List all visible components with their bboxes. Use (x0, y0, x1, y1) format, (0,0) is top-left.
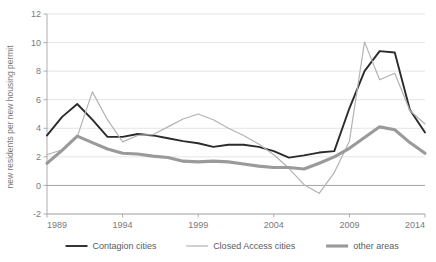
y-axis-title: new residents per new housing permit (5, 45, 15, 189)
x-tick-label: 2009 (339, 220, 359, 230)
y-tick-label: -2 (33, 209, 41, 219)
legend-label-1: Closed Access cities (213, 241, 296, 251)
x-tick-label: 1994 (113, 220, 133, 230)
x-tick-label: 2004 (264, 220, 284, 230)
y-tick-label: 12 (31, 9, 41, 19)
y-tick-label: 4 (36, 123, 41, 133)
y-tick-label: 2 (36, 152, 41, 162)
y-tick-label: 10 (31, 38, 41, 48)
x-tick-label: 1999 (188, 220, 208, 230)
x-tick-label: 2014 (405, 220, 425, 230)
y-tick-label: 0 (36, 181, 41, 191)
chart-figure: -2024681012 198919941999200420092014 new… (0, 0, 436, 262)
line-chart: -2024681012 198919941999200420092014 new… (0, 0, 436, 262)
y-tick-label: 6 (36, 95, 41, 105)
series-line-0 (47, 51, 425, 157)
x-tick-labels-group: 198919941999200420092014 (47, 214, 425, 230)
chart-legend: Contagion citiesClosed Access citiesothe… (66, 241, 400, 251)
legend-label-2: other areas (353, 241, 399, 251)
y-tick-labels-group: -2024681012 (31, 9, 47, 219)
series-paths-group (47, 42, 425, 193)
legend-label-0: Contagion cities (93, 241, 158, 251)
y-tick-label: 8 (36, 66, 41, 76)
x-tick-label: 1989 (47, 220, 67, 230)
